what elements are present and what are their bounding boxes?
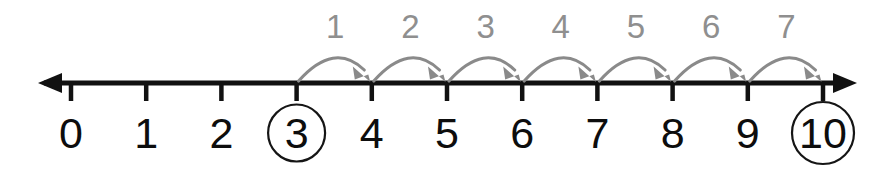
- tick-label-7: 7: [585, 109, 609, 157]
- tick-label-2: 2: [209, 109, 233, 157]
- tick-label-10: 10: [799, 109, 847, 157]
- hop-label-2: 2: [401, 8, 419, 45]
- hop-label-6: 6: [702, 8, 720, 45]
- tick-label-6: 6: [510, 109, 534, 157]
- highlight-circles-group: [268, 102, 854, 164]
- tick-label-5: 5: [435, 109, 459, 157]
- tick-marks-group: [71, 83, 823, 101]
- hop-label-7: 7: [777, 8, 795, 45]
- hop-label-3: 3: [476, 8, 494, 45]
- tick-label-1: 1: [134, 109, 158, 157]
- axis-left-arrow-icon: [38, 73, 62, 93]
- tick-label-8: 8: [661, 109, 685, 157]
- hop-label-1: 1: [326, 8, 344, 45]
- tick-label-0: 0: [59, 109, 83, 157]
- tick-labels-group: 012345678910: [59, 109, 847, 157]
- tick-label-9: 9: [736, 109, 760, 157]
- number-line-figure: 012345678910 1234567: [0, 0, 895, 177]
- hop-label-4: 4: [552, 8, 570, 45]
- tick-label-3: 3: [285, 109, 309, 157]
- tick-label-4: 4: [360, 109, 384, 157]
- number-line-canvas: 012345678910 1234567: [0, 0, 895, 177]
- hop-labels-group: 1234567: [326, 8, 796, 45]
- hop-arrows-group: [299, 58, 822, 82]
- hop-label-5: 5: [627, 8, 645, 45]
- axis-right-arrow-icon: [833, 73, 857, 93]
